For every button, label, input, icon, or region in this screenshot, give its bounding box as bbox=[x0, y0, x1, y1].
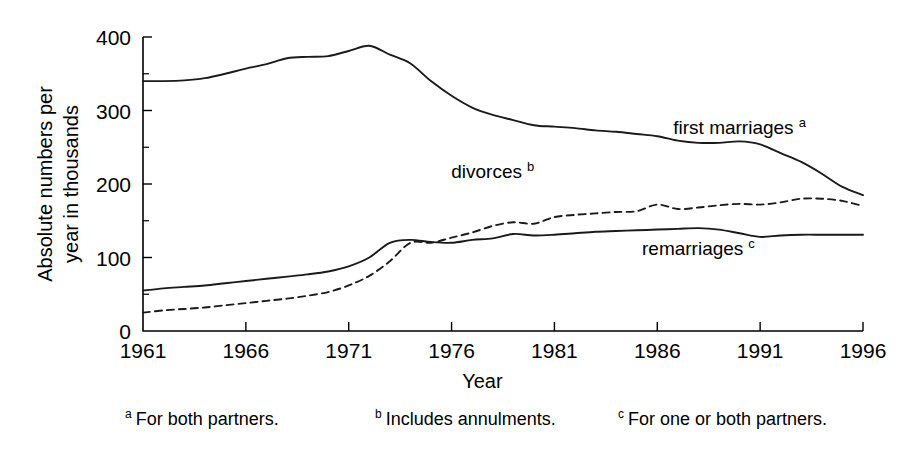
x-axis-title: Year bbox=[462, 370, 503, 392]
line-chart: 0100200300400196119661971197619811986199… bbox=[0, 0, 914, 450]
series-label-divorces: divorcesb bbox=[451, 159, 534, 182]
series-line-divorces bbox=[143, 198, 863, 312]
x-tick-label-1961: 1961 bbox=[120, 339, 167, 362]
x-tick-label-1966: 1966 bbox=[222, 339, 269, 362]
footnote-c: cFor one or both partners. bbox=[618, 407, 827, 429]
y-axis-title-line1: Absolute numbers per bbox=[34, 86, 56, 282]
series-label-remarriages: remarriagesc bbox=[642, 236, 755, 259]
x-tick-label-1996: 1996 bbox=[840, 339, 887, 362]
chart-container: 0100200300400196119661971197619811986199… bbox=[0, 0, 914, 450]
y-tick-label-100: 100 bbox=[96, 247, 131, 270]
axis-spines bbox=[143, 37, 863, 331]
x-tick-label-1981: 1981 bbox=[531, 339, 578, 362]
x-tick-label-1971: 1971 bbox=[325, 339, 372, 362]
x-tick-label-1976: 1976 bbox=[428, 339, 475, 362]
y-tick-label-300: 300 bbox=[96, 100, 131, 123]
series-line-remarriages bbox=[143, 228, 863, 290]
footnote-a: aFor both partners. bbox=[125, 407, 279, 429]
x-tick-label-1986: 1986 bbox=[634, 339, 681, 362]
x-tick-label-1991: 1991 bbox=[737, 339, 784, 362]
y-tick-label-400: 400 bbox=[96, 26, 131, 49]
y-tick-label-200: 200 bbox=[96, 173, 131, 196]
footnote-b: bIncludes annulments. bbox=[375, 407, 556, 429]
y-axis-title-line2: year in thousands bbox=[60, 105, 82, 263]
series-label-first-marriages: first marriagesa bbox=[673, 115, 806, 138]
